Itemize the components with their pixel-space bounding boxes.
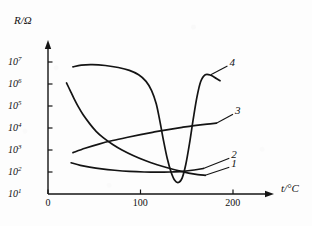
y-axis-arrowhead	[45, 40, 51, 49]
curve-label-3: 3	[235, 104, 241, 116]
curve-3	[73, 123, 216, 152]
y-axis-title: R/Ω	[14, 14, 32, 26]
curve-1	[67, 83, 206, 175]
curve-label-2: 2	[231, 148, 237, 160]
leader-line-4	[211, 66, 228, 75]
x-tick-label-200: 200	[225, 197, 240, 208]
leader-line-2	[203, 158, 229, 168]
x-tick-label-100: 100	[133, 197, 148, 208]
x-axis-arrowhead	[265, 191, 274, 197]
y-tick-label-1e4: 104	[8, 121, 22, 133]
curve-label-4: 4	[229, 56, 235, 68]
y-tick-label-1e5: 105	[8, 99, 22, 111]
y-tick-label-1e2: 102	[8, 165, 22, 177]
x-tick-label-0: 0	[45, 197, 50, 208]
y-tick-label-1e6: 106	[8, 77, 22, 89]
y-tick-label-1e3: 103	[8, 143, 22, 155]
y-tick-label-1e1: 101	[8, 187, 22, 199]
resistance-temperature-chart	[0, 0, 312, 226]
curve-4	[73, 65, 220, 183]
y-tick-label-1e7: 107	[8, 55, 22, 67]
leader-line-1	[205, 167, 229, 175]
curve-paths	[67, 65, 221, 183]
leader-line-3	[216, 114, 233, 123]
x-axis-title: t/°C	[281, 182, 299, 194]
leader-lines	[203, 66, 233, 175]
